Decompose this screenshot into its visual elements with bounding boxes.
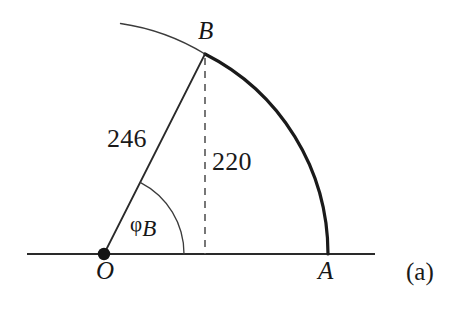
point-label-A: A [318,258,333,283]
panel-label: (a) [406,259,434,284]
figure-container: B O A 246 220 φB (a) [0,0,450,311]
phi-subscript-glyph: B [142,216,156,241]
point-label-O: O [96,258,114,283]
angle-label-phi-b: φB [130,212,156,235]
measurement-label-height: 220 [212,149,252,175]
phi-glyph: φ [130,212,142,236]
thin-arc-extension [121,24,206,55]
measurement-label-radius: 246 [107,126,147,152]
point-label-B: B [198,18,213,43]
